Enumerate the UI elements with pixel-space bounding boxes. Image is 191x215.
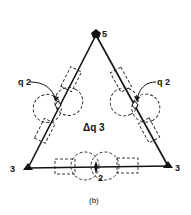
vertex-label-bottom-right: 3 xyxy=(175,163,180,173)
vertex-label-top: 5 xyxy=(102,29,107,39)
edge-left xyxy=(28,35,96,168)
dashed-circle xyxy=(105,83,143,121)
midpoint-label-bottom: 2 xyxy=(98,173,103,183)
triangle-edges xyxy=(28,35,168,168)
vertex-label-bottom-left: 3 xyxy=(10,164,15,174)
dashed-rect xyxy=(117,158,138,173)
dashed-circle xyxy=(127,89,165,127)
triangle-node-icon xyxy=(23,163,33,170)
figure-caption: (b) xyxy=(89,196,99,205)
pentagon-node-icon xyxy=(91,29,101,38)
right-edge-shape-functions xyxy=(96,59,173,150)
arrow-right-q2 xyxy=(137,82,156,100)
triangle-element-diagram: 5 3 3 q 2 q 2 2 Δq 3 (b) xyxy=(0,0,191,215)
edge-right xyxy=(96,35,168,166)
left-edge-shape-functions xyxy=(20,59,96,150)
triangle-node-icon xyxy=(163,161,173,168)
midpoint-label-left: q 2 xyxy=(18,77,31,87)
midpoint-label-right: q 2 xyxy=(157,77,170,87)
dashed-circle xyxy=(28,90,66,128)
arrow-left-q2 xyxy=(30,82,56,100)
center-label: Δq 3 xyxy=(83,122,105,133)
